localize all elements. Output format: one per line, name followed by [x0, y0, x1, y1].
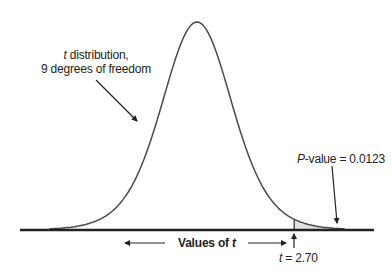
pvalue-p-symbol: P	[297, 152, 305, 166]
critical-t-annotation: t = 2.70	[279, 251, 318, 265]
t-distribution-chart	[0, 0, 392, 272]
axis-label-text: Values of	[178, 236, 232, 250]
dist-text: distribution,	[67, 48, 129, 62]
pvalue-annotation: P-value = 0.0123	[297, 152, 385, 166]
distribution-annotation: t distribution, 9 degrees of freedom	[40, 48, 152, 76]
axis-t-symbol: t	[232, 236, 236, 250]
t-value-text: = 2.70	[282, 251, 318, 265]
pvalue-arrow	[332, 166, 337, 223]
pvalue-text: -value = 0.0123	[305, 152, 385, 166]
dist-label-arrow	[96, 80, 137, 121]
dist-df-text: 9 degrees of freedom	[41, 62, 151, 76]
x-axis-label: Values of t	[178, 236, 236, 250]
